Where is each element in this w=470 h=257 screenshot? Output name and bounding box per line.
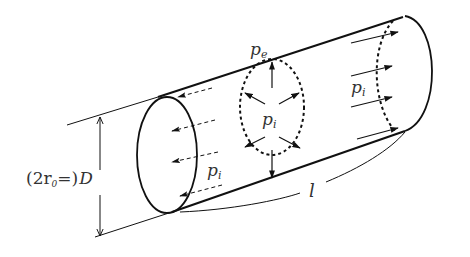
label-pi-left: pi — [207, 160, 221, 182]
right-end-arc — [405, 16, 432, 131]
label-diameter: (2r0=)D — [26, 168, 93, 189]
extension-line-top — [67, 97, 158, 125]
label-pi-center: pi — [262, 109, 276, 131]
label-pe: pe — [250, 39, 268, 61]
right-section-arc — [377, 21, 395, 131]
label-pi-right: pi — [351, 77, 365, 99]
cylinder-top-edge — [158, 17, 403, 97]
cylinder-diagram: pe pi pi pi (2r0=)D l — [0, 0, 470, 257]
length-dimension-right — [326, 132, 405, 182]
extension-line-bottom — [95, 212, 172, 237]
label-length: l — [309, 180, 315, 201]
left-end-ellipse — [137, 97, 197, 213]
